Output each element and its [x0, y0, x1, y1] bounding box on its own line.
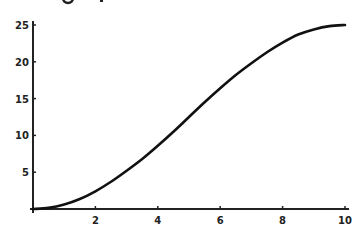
x-tick-label: 6 — [217, 215, 224, 226]
x-tick-label: 8 — [279, 215, 286, 226]
x-tick-label: 4 — [154, 215, 161, 226]
y-tick-label: 10 — [15, 130, 29, 141]
x-tick-label: 2 — [92, 215, 99, 226]
y-tick-label: 5 — [22, 167, 29, 178]
line-chart: 246810510152025 — [0, 0, 364, 228]
title-fragment — [63, 0, 103, 3]
x-tick-label: 10 — [338, 215, 352, 226]
y-tick-label: 20 — [15, 57, 29, 68]
y-tick-label: 25 — [15, 20, 29, 31]
y-tick-label: 15 — [15, 94, 29, 105]
data-curve — [33, 25, 345, 209]
